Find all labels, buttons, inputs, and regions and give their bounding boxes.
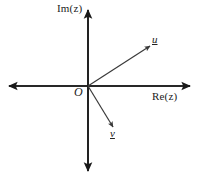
vector-v-label: v xyxy=(110,127,115,139)
imaginary-axis-label: Im(z) xyxy=(57,2,82,14)
vector-u-arrow xyxy=(88,46,150,86)
argand-diagram-figure: Im(z) Re(z) O u v xyxy=(0,0,207,177)
real-axis-label: Re(z) xyxy=(152,90,177,102)
vector-u-label: u xyxy=(152,33,158,45)
vector-v-arrow xyxy=(88,86,113,127)
origin-label: O xyxy=(74,85,83,100)
argand-diagram-canvas xyxy=(0,0,207,177)
